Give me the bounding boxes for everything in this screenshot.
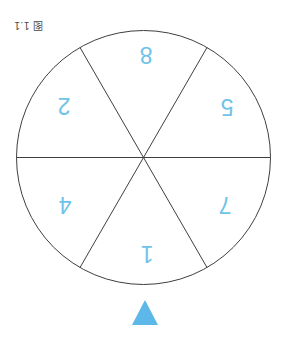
sector-label-lower-left: 4: [52, 192, 78, 218]
sector-label-upper-right: 5: [214, 94, 240, 120]
sector-label-lower-right: 7: [212, 192, 238, 218]
spinner-figure: 图 1.1 8 5 7 1 4 2: [0, 0, 287, 343]
pointer-triangle-icon: [132, 300, 158, 325]
sector-label-top: 8: [133, 42, 159, 68]
sector-label-bottom: 1: [134, 241, 160, 267]
sector-label-upper-left: 2: [51, 93, 77, 119]
